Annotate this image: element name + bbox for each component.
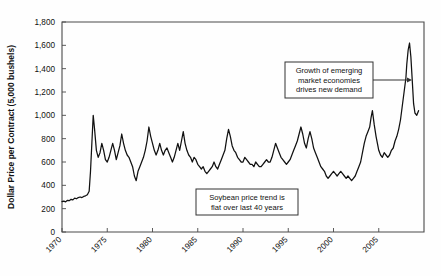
x-tick-label: 1990 bbox=[225, 235, 245, 255]
soybean-price-chart: Dollar Price per Contract (5,000 bushels… bbox=[0, 0, 441, 276]
y-tick-label: 800 bbox=[41, 135, 55, 144]
annotation-line: Soybean price trend is bbox=[209, 193, 285, 202]
annotation-line: flat over last 40 years bbox=[211, 203, 283, 212]
annotation-line: market economies bbox=[298, 76, 360, 85]
annotation-arrow-head bbox=[407, 77, 412, 82]
x-tick-label: 2005 bbox=[361, 235, 381, 255]
x-tick-label: 2000 bbox=[316, 235, 336, 255]
y-tick-label: 200 bbox=[41, 205, 55, 214]
x-tick-label: 1985 bbox=[180, 235, 200, 255]
annotation-flat-trend: Soybean price trend isflat over last 40 … bbox=[196, 189, 298, 215]
annotation-line: drives new demand bbox=[296, 85, 362, 94]
annotation-line: Growth of emerging bbox=[296, 66, 363, 75]
y-axis-title-text: Dollar Price per Contract (5,000 bushels… bbox=[6, 45, 16, 209]
annotation-emerging-markets: Growth of emergingmarket economiesdrives… bbox=[285, 62, 412, 98]
x-tick-label: 1995 bbox=[270, 235, 290, 255]
y-tick-label: 400 bbox=[41, 181, 55, 190]
y-tick-label: 1,200 bbox=[35, 88, 56, 97]
x-tick-label: 1975 bbox=[89, 235, 109, 255]
y-tick-label: 0 bbox=[50, 228, 55, 237]
y-tick-label: 1,800 bbox=[35, 18, 56, 27]
y-axis-title: Dollar Price per Contract (5,000 bushels… bbox=[6, 45, 16, 209]
chart-container: Dollar Price per Contract (5,000 bushels… bbox=[0, 0, 441, 276]
y-tick-label: 1,000 bbox=[35, 111, 56, 120]
y-tick-label: 1,400 bbox=[35, 65, 56, 74]
x-tick-label: 1970 bbox=[44, 235, 64, 255]
y-tick-label: 600 bbox=[41, 158, 55, 167]
y-axis-ticks: 02004006008001,0001,2001,4001,6001,800 bbox=[35, 18, 67, 237]
x-tick-label: 1980 bbox=[135, 235, 155, 255]
y-tick-label: 1,600 bbox=[35, 41, 56, 50]
